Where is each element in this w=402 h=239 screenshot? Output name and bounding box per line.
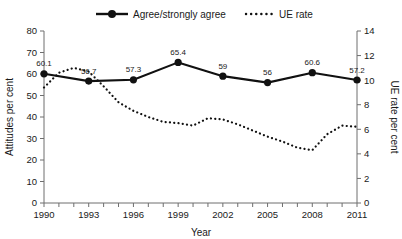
- x-axis-tick-label: 2011: [347, 209, 367, 220]
- y-axis-right-tick-label: 8: [364, 99, 369, 110]
- series-marker: [309, 69, 316, 76]
- series-point-label: 60.1: [36, 59, 52, 68]
- x-axis-tick-label: 1996: [123, 209, 144, 220]
- y-axis-right-tick-label: 2: [364, 173, 369, 184]
- series-marker: [130, 76, 137, 83]
- line-chart: Agree/strongly agree UE rate Attitudes p…: [0, 0, 402, 239]
- series-point-label: 59: [218, 62, 227, 71]
- series-marker: [40, 70, 47, 77]
- y-axis-left-tick-label: 40: [26, 111, 37, 122]
- x-axis-title: Year: [191, 227, 212, 238]
- y-axis-left-tick-label: 80: [26, 25, 37, 36]
- series-marker: [175, 59, 182, 66]
- y-axis-right-tick-label: 14: [364, 25, 375, 36]
- x-axis-tick-label: 2008: [302, 209, 323, 220]
- x-axis-tick-label: 1999: [168, 209, 189, 220]
- series-point-label: 56: [263, 68, 272, 77]
- x-axis-tick-label: 2005: [257, 209, 278, 220]
- y-axis-left-tick-label: 60: [26, 68, 37, 79]
- y-axis-right-tick-label: 4: [364, 148, 369, 159]
- series-point-label: 57.2: [349, 66, 365, 75]
- y-axis-left-tick-label: 70: [26, 47, 37, 58]
- legend-label-ue-rate: UE rate: [279, 9, 313, 20]
- series-marker: [353, 76, 360, 83]
- y-axis-left-tick-label: 50: [26, 90, 37, 101]
- series-point-label: 57.3: [126, 65, 142, 74]
- x-axis-tick-label: 2002: [212, 209, 233, 220]
- y-axis-left-tick-label: 10: [26, 176, 37, 187]
- y-axis-left-tick-label: 20: [26, 154, 37, 165]
- y-axis-right-tick-label: 6: [364, 124, 369, 135]
- series-point-label: 60.6: [305, 58, 321, 67]
- x-axis-tick-label: 1990: [33, 209, 54, 220]
- y-axis-right-tick-label: 0: [364, 197, 369, 208]
- y-axis-right-tick-label: 10: [364, 75, 375, 86]
- series-marker: [219, 73, 226, 80]
- chart-container: Agree/strongly agree UE rate Attitudes p…: [0, 0, 402, 239]
- y-axis-right-title: UE rate per cent: [389, 81, 400, 154]
- series-marker: [264, 79, 271, 86]
- y-axis-left-tick-label: 0: [32, 197, 37, 208]
- legend-label-agree: Agree/strongly agree: [133, 9, 226, 20]
- series-point-label: 56.7: [81, 67, 97, 76]
- legend-marker-circle: [108, 10, 116, 18]
- series-marker: [85, 77, 92, 84]
- series-point-label: 65.4: [170, 48, 186, 57]
- y-axis-left-tick-label: 30: [26, 133, 37, 144]
- y-axis-right-tick-label: 12: [364, 50, 375, 61]
- y-axis-left-title: Attitudes per cent: [4, 78, 15, 156]
- x-axis-tick-label: 1993: [78, 209, 99, 220]
